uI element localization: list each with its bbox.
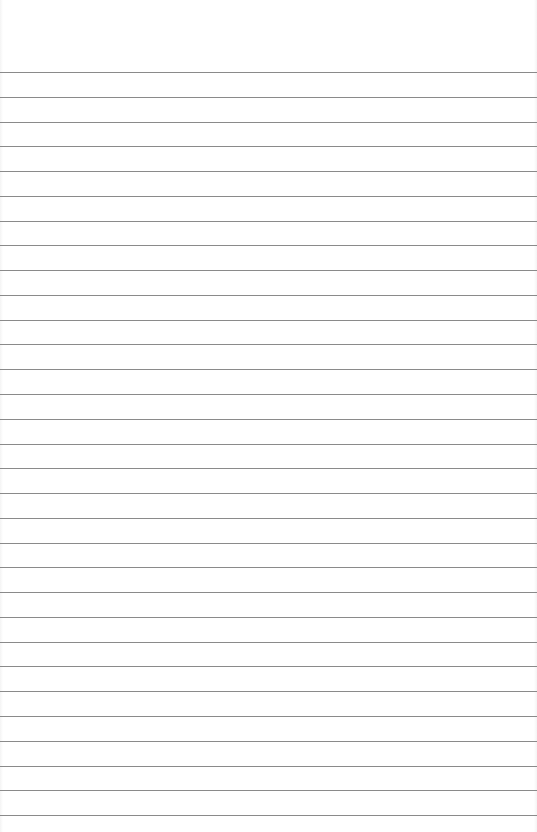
ruled-line (0, 394, 537, 395)
ruled-line (0, 320, 537, 321)
ruled-line (0, 617, 537, 618)
ruled-line (0, 122, 537, 123)
ruled-line (0, 592, 537, 593)
ruled-line (0, 666, 537, 667)
ruled-line (0, 790, 537, 791)
ruled-line (0, 741, 537, 742)
ruled-line (0, 295, 537, 296)
lined-paper-sheet (0, 0, 537, 832)
ruled-line (0, 196, 537, 197)
ruled-line (0, 171, 537, 172)
ruled-line (0, 419, 537, 420)
ruled-line (0, 270, 537, 271)
ruled-line (0, 642, 537, 643)
ruled-line (0, 716, 537, 717)
ruled-line (0, 815, 537, 816)
ruled-line (0, 766, 537, 767)
ruled-line (0, 245, 537, 246)
ruled-line (0, 518, 537, 519)
ruled-line (0, 468, 537, 469)
ruled-line (0, 344, 537, 345)
ruled-line (0, 567, 537, 568)
ruled-line (0, 543, 537, 544)
ruled-line (0, 72, 537, 73)
ruled-line (0, 444, 537, 445)
ruled-line (0, 221, 537, 222)
ruled-line (0, 369, 537, 370)
ruled-line (0, 97, 537, 98)
ruled-line (0, 691, 537, 692)
ruled-line (0, 493, 537, 494)
ruled-line (0, 146, 537, 147)
